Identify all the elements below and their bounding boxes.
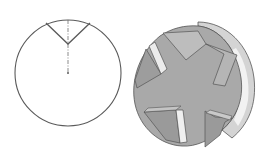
center-point <box>67 72 69 74</box>
cutter-figure <box>0 0 266 155</box>
3d-view <box>134 22 255 147</box>
section-view <box>15 20 121 126</box>
